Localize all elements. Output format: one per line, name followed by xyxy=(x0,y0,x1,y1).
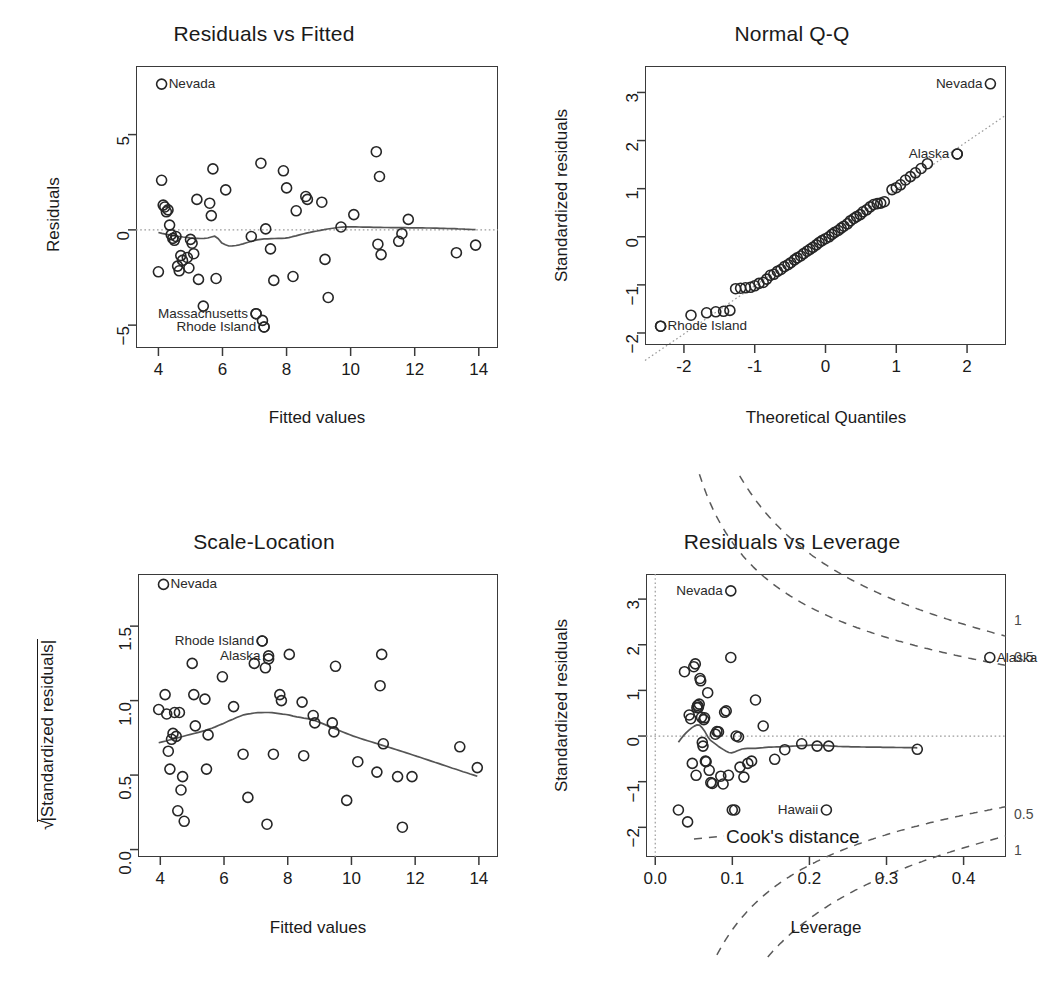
panel-normal-qq: Normal Q-Q -2-1012−2−10123 NevadaAlaskaR… xyxy=(528,22,1056,462)
x-axis-label: Theoretical Quantiles xyxy=(676,408,976,428)
y-axis-label: Standardized residuals xyxy=(552,619,572,792)
x-tick-label: 0.4 xyxy=(934,869,994,889)
cooks-distance-legend-label: Cook's distance xyxy=(726,826,860,848)
y-tick-label: 0 xyxy=(114,231,134,291)
point-label-alaska: Alaska xyxy=(528,146,949,161)
panel-residuals-vs-leverage: Residuals vs Leverage 0.00.10.20.30.4−2−… xyxy=(528,530,1056,970)
cooks-contour-label: 0.5 xyxy=(1014,806,1033,822)
x-tick-label: 8 xyxy=(258,869,318,889)
y-axis-label: Standardized residuals xyxy=(552,109,572,282)
plot-canvas xyxy=(0,22,528,462)
x-tick-label: 4 xyxy=(128,360,188,380)
x-tick-label: 14 xyxy=(449,360,509,380)
x-tick-label: 6 xyxy=(194,869,254,889)
x-tick-label: 1 xyxy=(866,357,926,377)
y-tick-label: 3 xyxy=(624,600,644,660)
x-tick-label: 0.2 xyxy=(779,869,839,889)
x-tick-label: 2 xyxy=(937,357,997,377)
x-tick-label: 0.3 xyxy=(857,869,917,889)
point-label-alaska: Alaska xyxy=(997,650,1038,665)
y-tick-label: −5 xyxy=(114,326,134,386)
y-tick-label: 1.0 xyxy=(116,702,136,762)
diagnostic-plot-figure: Residuals vs Fitted 468101214−505 Nevada… xyxy=(0,0,1056,990)
panel-scale-location: Scale-Location 4681012140.00.51.01.5 Nev… xyxy=(0,530,528,970)
x-axis-label: Fitted values xyxy=(167,408,467,428)
x-axis-label: Fitted values xyxy=(168,918,468,938)
x-tick-label: 14 xyxy=(449,869,509,889)
x-tick-label: 0 xyxy=(796,357,856,377)
x-tick-label: 6 xyxy=(192,360,252,380)
plot-canvas xyxy=(0,530,528,970)
x-tick-label: 12 xyxy=(385,869,445,889)
x-tick-label: 10 xyxy=(321,869,381,889)
y-axis-label: √|Standardized residuals| xyxy=(36,639,58,830)
point-label-nevada: Nevada xyxy=(528,76,982,91)
point-label-nevada: Nevada xyxy=(169,76,216,91)
x-axis-label: Leverage xyxy=(676,918,976,938)
panel-residuals-vs-fitted: Residuals vs Fitted 468101214−505 Nevada… xyxy=(0,22,528,462)
x-tick-label: 10 xyxy=(321,360,381,380)
y-tick-label: 3 xyxy=(623,93,643,153)
point-label-rhode-island: Rhode Island xyxy=(0,319,256,334)
y-axis-label-text: |Standardized residuals| xyxy=(37,639,57,822)
x-tick-label: 8 xyxy=(257,360,317,380)
y-axis-label: Residuals xyxy=(44,177,64,252)
point-label-nevada: Nevada xyxy=(170,576,217,591)
cooks-contour-label: 1 xyxy=(1014,612,1022,628)
point-label-nevada: Nevada xyxy=(528,583,723,598)
x-tick-label: 4 xyxy=(130,869,190,889)
x-tick-label: -2 xyxy=(654,357,714,377)
point-label-rhode-island: Rhode Island xyxy=(668,318,748,333)
y-tick-label: 0.0 xyxy=(116,851,136,911)
x-tick-label: 0.1 xyxy=(702,869,762,889)
y-tick-label: 5 xyxy=(114,136,134,196)
cooks-contour-label: 1 xyxy=(1014,842,1022,858)
y-tick-label: 0.5 xyxy=(116,776,136,836)
x-tick-label: 12 xyxy=(385,360,445,380)
point-label-hawaii: Hawaii xyxy=(528,802,818,817)
x-tick-label: -1 xyxy=(725,357,785,377)
